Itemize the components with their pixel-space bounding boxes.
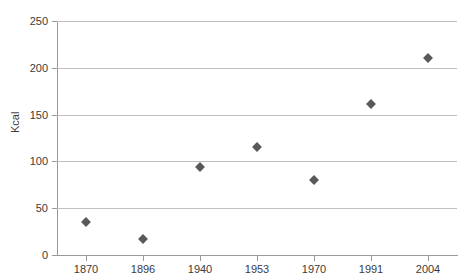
- plot-area: [57, 21, 457, 255]
- y-axis-tick-label: 250: [30, 16, 48, 27]
- y-axis-tick-label: 200: [30, 63, 48, 74]
- y-axis-tick: [52, 255, 57, 256]
- x-axis-tick-label: 1991: [359, 263, 383, 275]
- data-point-marker: [81, 217, 91, 227]
- x-axis-tick-label: 2004: [416, 263, 440, 275]
- x-axis-tick: [257, 256, 258, 261]
- x-axis-tick-label: 1953: [245, 263, 269, 275]
- data-point-marker: [252, 142, 262, 152]
- x-axis-tick-label: 1896: [131, 263, 155, 275]
- x-axis-tick: [200, 256, 201, 261]
- x-axis-tick-label: 1940: [188, 263, 212, 275]
- y-axis-tick-label: 100: [30, 156, 48, 167]
- x-axis-tick: [371, 256, 372, 261]
- x-axis-tick: [314, 256, 315, 261]
- data-point-marker: [309, 175, 319, 185]
- data-point-marker: [423, 53, 433, 63]
- data-point-marker: [195, 162, 205, 172]
- y-axis-tick-label: 50: [36, 203, 48, 214]
- y-axis-title: Kcal: [10, 112, 21, 133]
- x-axis-tick: [428, 256, 429, 261]
- y-axis-tick-label: 150: [30, 110, 48, 121]
- data-point-marker: [138, 234, 148, 244]
- x-axis-tick: [86, 256, 87, 261]
- x-axis-tick-label: 1870: [74, 263, 98, 275]
- x-axis-tick-label: 1970: [302, 263, 326, 275]
- chart-container: Kcal 050100150200250 1870189619401953197…: [0, 0, 470, 279]
- y-axis-tick-label: 0: [42, 250, 48, 261]
- data-point-marker: [366, 99, 376, 109]
- x-axis-tick: [143, 256, 144, 261]
